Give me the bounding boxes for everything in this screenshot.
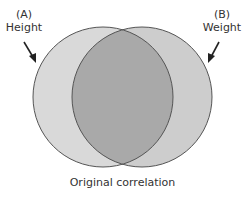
label-a-tag: (A) bbox=[4, 8, 44, 21]
caption: Original correlation bbox=[60, 176, 185, 189]
label-b: (B) Weight bbox=[200, 8, 244, 34]
label-a: (A) Height bbox=[4, 8, 44, 34]
label-b-tag: (B) bbox=[200, 8, 244, 21]
arrow-b-icon bbox=[208, 42, 219, 63]
label-a-name: Height bbox=[4, 21, 44, 34]
label-b-name: Weight bbox=[200, 21, 244, 34]
arrow-a-icon bbox=[24, 42, 36, 63]
